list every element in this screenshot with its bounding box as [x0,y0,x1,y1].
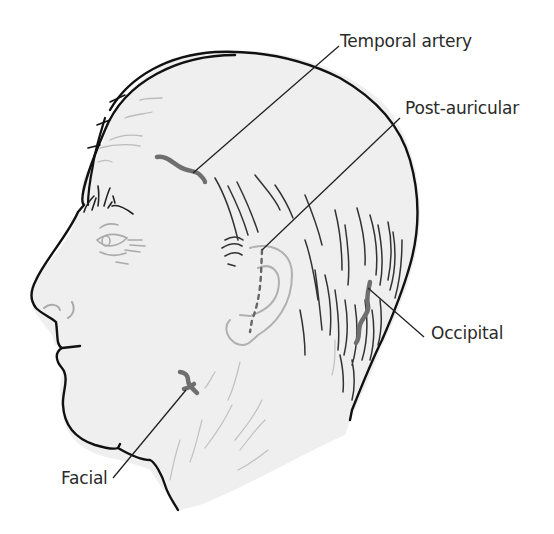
label-occipital: Occipital [431,325,503,342]
head-outline [30,51,420,510]
label-post-auricular: Post-auricular [405,100,519,117]
label-temporal-artery: Temporal artery [340,33,472,50]
head-pulse-points-diagram: Temporal artery Post-auricular Occipital… [0,0,554,534]
head-illustration [0,0,554,534]
label-facial: Facial [61,470,108,487]
